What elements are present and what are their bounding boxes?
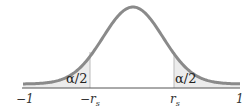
right-alpha-label: α/2: [175, 71, 196, 86]
density-curve: [23, 7, 240, 84]
tick-neg-one: −1: [16, 92, 34, 106]
tick-neg-rs-sub: s: [96, 99, 100, 108]
distribution-chart: α/2 α/2 −1 −rs rs 1: [0, 0, 252, 111]
tick-neg-rs: −rs: [80, 92, 100, 108]
left-alpha-label: α/2: [66, 71, 87, 86]
tick-one: 1: [236, 92, 244, 106]
tick-pos-rs-sub: s: [176, 99, 180, 108]
bell-curve-plot: [0, 0, 252, 111]
tick-pos-rs: rs: [170, 92, 180, 108]
tick-neg-rs-text: −r: [80, 92, 96, 106]
